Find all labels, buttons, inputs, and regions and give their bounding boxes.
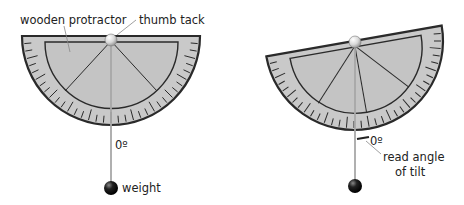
wooden-protractor-label: wooden protractor bbox=[20, 13, 127, 27]
right-thumb-tack bbox=[349, 36, 361, 48]
right-weight bbox=[348, 179, 362, 193]
angle-indicator bbox=[357, 137, 369, 139]
thumb-tack-label: thumb tack bbox=[139, 13, 205, 27]
right-protractor bbox=[266, 26, 457, 145]
right-zero-label: 0º bbox=[370, 134, 383, 148]
left-weight bbox=[104, 181, 118, 195]
left-thumb-tack bbox=[105, 34, 117, 46]
diagram-canvas: wooden protractor thumb tack 0º weight 0… bbox=[0, 0, 464, 205]
left-zero-label: 0º bbox=[115, 138, 128, 152]
read-angle-label-line1: read angle bbox=[383, 150, 444, 164]
weight-label: weight bbox=[122, 181, 161, 195]
read-angle-label-line2: of tilt bbox=[395, 165, 426, 179]
